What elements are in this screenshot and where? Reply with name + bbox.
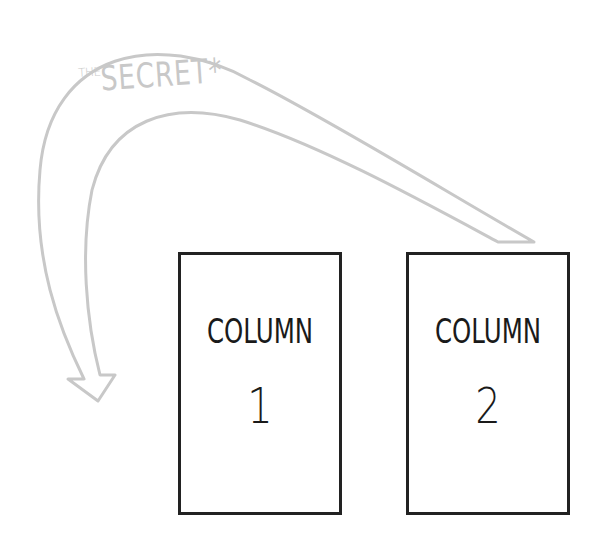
column-1-title: COLUMN (203, 311, 317, 351)
column-1-box: COLUMN 1 (178, 252, 342, 515)
secret-label-prefix: THE (78, 65, 101, 81)
column-2-box: COLUMN 2 (406, 252, 570, 515)
column-2-number: 2 (425, 377, 551, 435)
secret-label-main: SECRET* (100, 50, 225, 98)
diagram-canvas: THESECRET* COLUMN 1 COLUMN 2 (0, 0, 606, 551)
column-2-title: COLUMN (431, 311, 545, 351)
column-1-number: 1 (197, 377, 323, 435)
